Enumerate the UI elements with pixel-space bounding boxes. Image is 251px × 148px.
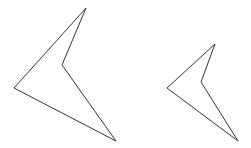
diagram-canvas xyxy=(0,0,251,148)
large-concave-quadrilateral xyxy=(14,8,116,141)
small-concave-quadrilateral xyxy=(167,44,238,141)
